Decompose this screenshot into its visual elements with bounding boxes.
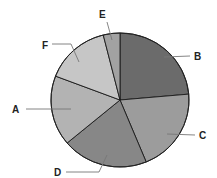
label-c: C [199,130,206,141]
label-a: A [12,104,19,115]
slice-b [120,33,189,100]
pie-slices [51,33,189,167]
pie-chart: B C D A F E [0,0,217,178]
label-e: E [99,9,106,20]
label-d: D [54,167,61,178]
label-f: F [42,40,48,51]
label-b: B [194,51,201,62]
